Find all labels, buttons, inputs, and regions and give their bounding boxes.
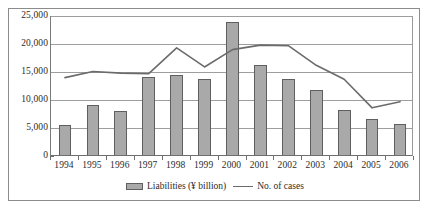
line-series-no-of-cases — [51, 16, 414, 156]
legend-label-liabilities: Liabilities (¥ billion) — [147, 181, 226, 191]
y-axis-tick-label: 20,000 — [2, 39, 48, 49]
chart-legend: Liabilities (¥ billion) No. of cases — [0, 178, 430, 194]
x-axis-tick-label: 2003 — [306, 158, 325, 172]
x-axis-tick-label: 2004 — [333, 158, 352, 172]
y-axis-tick-labels: 05,00010,00015,00020,00025,000 — [0, 16, 48, 156]
legend-item-liabilities: Liabilities (¥ billion) — [126, 181, 226, 191]
x-axis-tick-label: 2006 — [389, 158, 408, 172]
y-axis-tick-label: 5,000 — [2, 123, 48, 133]
legend-item-no-of-cases: No. of cases — [233, 181, 304, 191]
x-axis-tick-label: 2001 — [250, 158, 269, 172]
x-axis-tick-label: 1994 — [54, 158, 73, 172]
x-axis-tick-label: 1997 — [138, 158, 157, 172]
line-polyline — [65, 45, 400, 108]
plot-area — [50, 16, 413, 156]
x-axis-tick-label: 2000 — [222, 158, 241, 172]
x-axis-tick-label: 1995 — [82, 158, 101, 172]
chart-figure: 05,00010,00015,00020,00025,000 199419951… — [0, 0, 430, 209]
x-axis-tick-label: 2005 — [361, 158, 380, 172]
y-axis-tick-label: 15,000 — [2, 67, 48, 77]
x-axis-tick-label: 1999 — [194, 158, 213, 172]
legend-bar-swatch-icon — [126, 183, 143, 190]
y-axis-tick-label: 25,000 — [2, 11, 48, 21]
y-axis-tick-label: 0 — [2, 151, 48, 161]
x-axis-tick-label: 1998 — [166, 158, 185, 172]
x-axis-tick-label: 1996 — [110, 158, 129, 172]
x-axis-tickmark — [413, 156, 414, 160]
x-axis-tick-label: 2002 — [278, 158, 297, 172]
legend-line-swatch-icon — [233, 186, 253, 187]
x-axis-tick-labels: 1994199519961997199819992000200120022003… — [50, 158, 413, 172]
y-axis-tick-label: 10,000 — [2, 95, 48, 105]
legend-label-no-of-cases: No. of cases — [257, 181, 304, 191]
